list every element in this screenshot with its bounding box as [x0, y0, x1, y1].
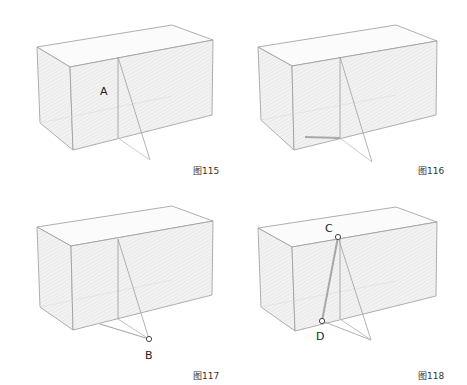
label-d: D — [316, 330, 324, 343]
figure-117-box — [37, 206, 213, 342]
caption-fig-117: 图117 — [193, 369, 219, 382]
label-b: B — [145, 349, 153, 362]
figure-116-box — [258, 25, 437, 162]
figure-118-box — [258, 207, 437, 340]
figure-115-box — [37, 25, 213, 160]
caption-fig-115: 图115 — [193, 164, 219, 177]
caption-fig-116: 图116 — [418, 164, 444, 177]
label-a: A — [100, 85, 108, 98]
caption-fig-118: 图118 — [418, 369, 444, 382]
diagram-canvas — [0, 0, 467, 385]
point-c-marker — [335, 234, 340, 239]
point-d-marker — [319, 318, 324, 323]
label-c: C — [325, 222, 333, 235]
point-b-marker — [146, 336, 151, 341]
